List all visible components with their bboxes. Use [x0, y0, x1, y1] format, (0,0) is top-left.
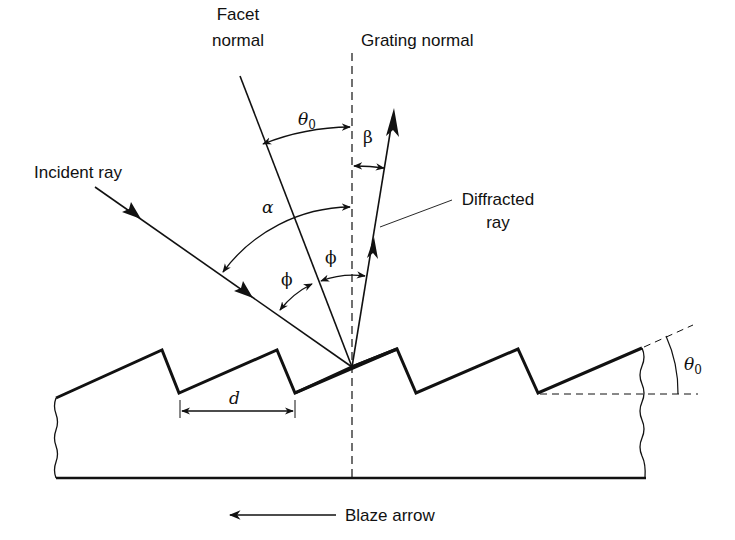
grating-profile [56, 348, 642, 398]
blazed-grating-diagram: Facet normal Grating normal Incident ray… [0, 0, 735, 540]
phi-left-symbol: ϕ [281, 269, 293, 289]
theta0-top-arc [263, 127, 350, 144]
diffracted-ray-label-2: ray [486, 213, 510, 232]
incident-ray-arrow-2 [234, 281, 253, 298]
theta0-right-symbol: θ0 [684, 354, 702, 377]
alpha-symbol: α [262, 197, 274, 217]
grating-left-break [55, 398, 58, 478]
beta-symbol: β [363, 127, 373, 147]
theta0-top-symbol: θ0 [298, 109, 316, 132]
facet-normal-line [240, 76, 352, 367]
phi-right-arc [321, 275, 365, 281]
diffracted-ray-arrowhead [386, 108, 399, 137]
diffracted-ray-leader [380, 200, 452, 227]
incident-ray-label: Incident ray [34, 163, 122, 182]
diffracted-ray-label-1: Diffracted [462, 190, 534, 209]
grating-body [55, 348, 647, 478]
grating-right-break [640, 348, 645, 478]
grating-profile-fix [295, 349, 397, 393]
d-symbol: d [229, 388, 240, 408]
blaze-arrow-label: Blaze arrow [345, 506, 435, 525]
facet-normal-label-1: Facet [217, 5, 260, 24]
phi-right-symbol: ϕ [325, 247, 337, 267]
facet-extension-dashed [644, 325, 693, 347]
incident-ray-arrow-1 [122, 202, 141, 219]
facet-normal-label-2: normal [212, 31, 264, 50]
grating-normal-label: Grating normal [361, 31, 473, 50]
diffracted-ray-line [352, 115, 393, 367]
theta0-right-arc [666, 336, 678, 394]
beta-arc [354, 166, 384, 168]
